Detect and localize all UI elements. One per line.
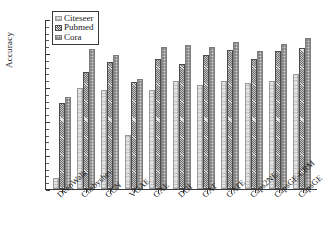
bar-group bbox=[98, 20, 122, 189]
x-axis-labels: DeepWalkChebyshevGCNVGAEGAEDGIGATGATECap… bbox=[45, 192, 317, 242]
legend-label-cora: Cora bbox=[64, 33, 82, 42]
bar-group bbox=[50, 20, 74, 189]
accuracy-bar-chart: Accuracy 0.90.80.70.60.50.4 DeepWalkCheb… bbox=[0, 0, 333, 242]
legend: CiteseerPubmedCora bbox=[52, 11, 99, 45]
bar-group bbox=[218, 20, 242, 189]
legend-swatch-citeseer bbox=[55, 16, 62, 22]
bar-group bbox=[122, 20, 146, 189]
bar-groups bbox=[46, 20, 317, 189]
bar-cora-gae bbox=[161, 47, 167, 189]
legend-swatch-pubmed bbox=[55, 25, 62, 31]
bar-cora-gate bbox=[233, 42, 239, 189]
bar-group bbox=[194, 20, 218, 189]
bar-group bbox=[146, 20, 170, 189]
legend-label-pubmed: Pubmed bbox=[64, 23, 94, 32]
bar-cora-dgi bbox=[185, 45, 191, 189]
bar-group bbox=[170, 20, 194, 189]
bar-group bbox=[242, 20, 266, 189]
bar-cora-vgae bbox=[137, 79, 143, 189]
y-axis-label: Accuracy bbox=[4, 32, 14, 68]
bar-cora-gat bbox=[209, 47, 215, 189]
legend-item-cora: Cora bbox=[55, 33, 94, 43]
legend-swatch-cora bbox=[55, 35, 62, 41]
y-tick-mark bbox=[46, 190, 50, 191]
plot-area: 0.90.80.70.60.50.4 bbox=[45, 20, 317, 190]
bar-cora-deepwalk bbox=[65, 97, 71, 189]
bar-cora-gcn bbox=[113, 55, 119, 189]
bar-cora-chebyshev bbox=[89, 49, 95, 189]
bar-group bbox=[266, 20, 290, 189]
bar-group bbox=[74, 20, 98, 189]
bar-cora-caps2ne bbox=[257, 51, 263, 189]
bar-cora-capsge-crm bbox=[281, 44, 287, 189]
